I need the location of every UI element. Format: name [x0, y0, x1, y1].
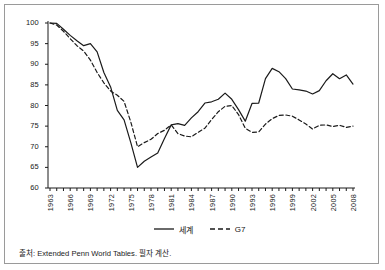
x-tick-label: 1990: [228, 194, 237, 211]
legend-item-g7: G7: [209, 225, 246, 234]
chart-svg: [43, 21, 355, 194]
x-tick-label: 2005: [329, 194, 338, 211]
legend-label-g7: G7: [235, 225, 246, 234]
x-tick-label: 1975: [127, 194, 136, 211]
plot-area: 6065707580859095100 19631966196919721975…: [43, 21, 355, 194]
y-tick-label: 85: [17, 81, 39, 89]
x-tick-label: 1987: [208, 194, 217, 211]
y-tick-label: 65: [17, 163, 39, 171]
x-tick-label: 1981: [167, 194, 176, 211]
y-tick-label: 60: [17, 184, 39, 192]
legend-swatch-solid-icon: [153, 225, 175, 233]
legend-label-world: 세계: [179, 224, 193, 235]
x-tick-label: 1996: [268, 194, 277, 211]
x-tick-label: 1972: [107, 194, 116, 211]
series-line-world: [50, 23, 353, 167]
y-tick-label: 95: [17, 40, 39, 48]
y-tick-label: 70: [17, 143, 39, 151]
source-note: 출처: Extended Penn World Tables. 필자 계산.: [19, 247, 171, 258]
axes: [45, 21, 355, 191]
x-tick-label: 2008: [349, 194, 358, 211]
chart-legend: 세계 G7: [43, 221, 355, 237]
chart-frame: 6065707580859095100 19631966196919721975…: [4, 4, 379, 264]
x-tick-label: 1966: [66, 194, 75, 211]
series-line-g7: [50, 23, 353, 147]
data-series-group: [50, 23, 353, 167]
legend-swatch-dashed-icon: [209, 225, 231, 233]
x-tick-label: 1969: [86, 194, 95, 211]
source-divider: [13, 241, 373, 242]
x-tick-label: 1984: [187, 194, 196, 211]
y-tick-label: 90: [17, 60, 39, 68]
legend-item-world: 세계: [153, 224, 193, 235]
y-tick-label: 100: [17, 19, 39, 27]
y-tick-label: 75: [17, 122, 39, 130]
x-tick-label: 2002: [309, 194, 318, 211]
x-tick-label: 1963: [46, 194, 55, 211]
x-tick-label: 1993: [248, 194, 257, 211]
x-tick-label: 1999: [288, 194, 297, 211]
x-tick-label: 1978: [147, 194, 156, 211]
y-tick-label: 80: [17, 102, 39, 110]
